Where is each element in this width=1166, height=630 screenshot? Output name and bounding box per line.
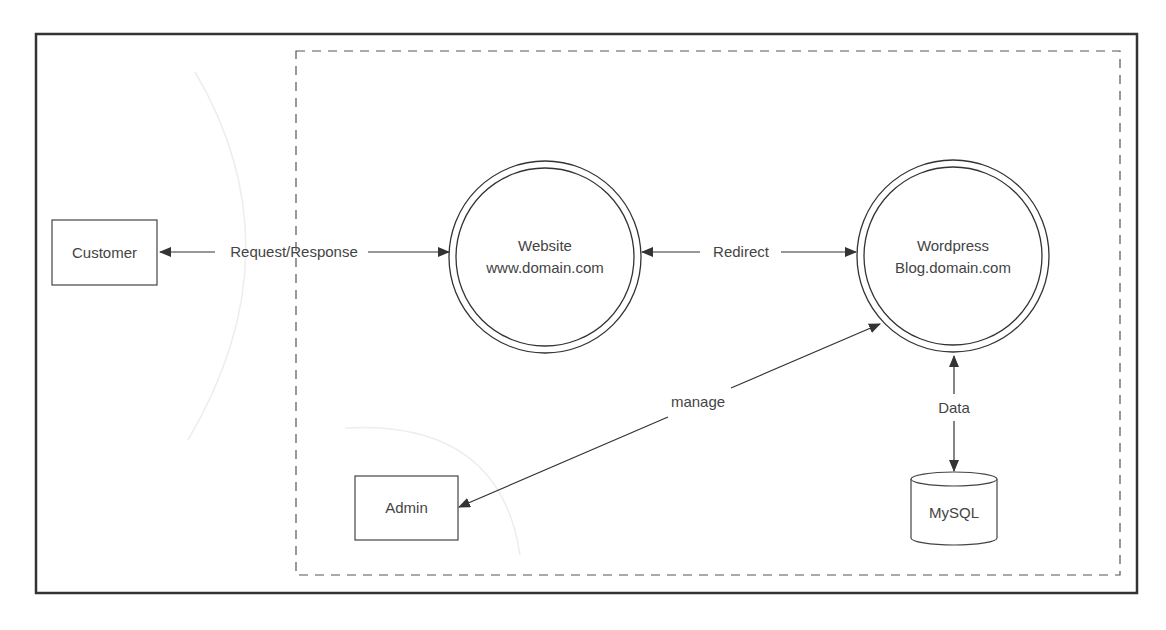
website-title: Website [518,237,572,254]
mysql-label: MySQL [929,504,979,521]
edge-manage[interactable]: manage [459,324,880,507]
node-admin[interactable]: Admin [355,476,458,540]
edge-redirect[interactable]: Redirect [642,243,856,260]
request-response-label: Request/Response [230,243,358,260]
node-wordpress[interactable]: Wordpress Blog.domain.com [857,160,1049,352]
redirect-label: Redirect [713,243,770,260]
edge-request-response[interactable]: Request/Response [160,243,449,260]
admin-label: Admin [385,499,428,516]
wordpress-title: Wordpress [917,237,989,254]
manage-label: manage [671,393,725,410]
node-customer[interactable]: Customer [52,220,157,285]
customer-label: Customer [72,244,137,261]
website-subtitle: www.domain.com [485,259,604,276]
node-website[interactable]: Website www.domain.com [449,161,641,353]
edge-data[interactable]: Data [938,356,970,471]
data-label: Data [938,399,970,416]
architecture-diagram: Customer Request/Response Website www.do… [0,0,1166,630]
wordpress-subtitle: Blog.domain.com [895,259,1011,276]
node-mysql[interactable]: MySQL [911,472,997,545]
